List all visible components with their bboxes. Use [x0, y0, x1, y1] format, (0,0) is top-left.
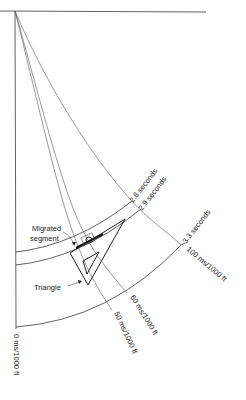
radial-line-60	[15, 11, 127, 293]
radial-line-50	[15, 11, 112, 310]
migration-diagram: Migrated segment Triangle 2.8 seconds 2.…	[0, 0, 246, 400]
migrated-arrowhead	[72, 242, 76, 246]
diagram-svg: Migrated segment Triangle 2.8 seconds 2.…	[0, 0, 246, 400]
triangle-arrowhead	[78, 280, 82, 284]
label-60-ms: 60 ms/1000 ft	[128, 293, 160, 337]
radial-line-100	[15, 11, 181, 245]
triangle-leader	[68, 282, 80, 286]
label-3-3-seconds: 3.3 seconds	[180, 208, 212, 246]
surface-line	[0, 11, 206, 12]
label-triangle: Triangle	[34, 283, 61, 292]
radial-line-0	[15, 11, 16, 329]
label-migrated: Migrated	[32, 224, 61, 233]
label-0-ms: 0 ms/1000 ft	[12, 334, 21, 376]
label-100-ms: 100 ms/1000 ft	[185, 245, 229, 284]
triangle-outer	[70, 219, 125, 285]
label-50-ms: 50 ms/1000 ft	[112, 310, 140, 356]
label-segment: segment	[30, 234, 60, 243]
